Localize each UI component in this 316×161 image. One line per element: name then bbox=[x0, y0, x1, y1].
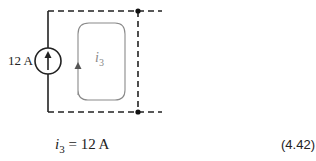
current-source-label: 12 A bbox=[8, 53, 33, 69]
loop-current-label: i3 bbox=[95, 50, 104, 68]
current-source-icon bbox=[35, 48, 61, 74]
circuit-diagram bbox=[0, 0, 316, 125]
loop-arrow-icon bbox=[75, 62, 82, 69]
loop-current-sub: 3 bbox=[99, 57, 104, 68]
equation: i3 = 12 A bbox=[55, 136, 109, 155]
equation-number: (4.42) bbox=[281, 137, 315, 152]
equation-rhs: = 12 A bbox=[65, 136, 110, 152]
bottom-node bbox=[135, 109, 140, 114]
top-node bbox=[135, 8, 140, 13]
